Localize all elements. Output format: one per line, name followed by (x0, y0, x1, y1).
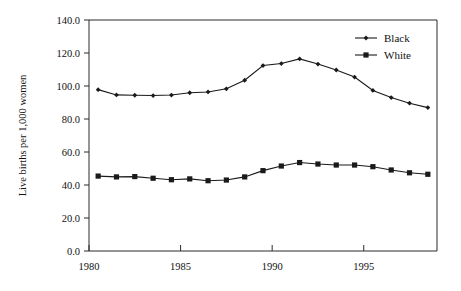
data-point-white (96, 173, 101, 178)
data-point-black (389, 95, 394, 100)
data-point-black (151, 93, 156, 98)
data-point-black (114, 93, 119, 98)
y-tick-label: 100.0 (56, 81, 80, 92)
x-tick-label: 1990 (262, 261, 283, 272)
data-point-white (224, 177, 229, 182)
data-point-black (334, 68, 339, 73)
data-point-white (425, 172, 430, 177)
y-axis-title: Live births per 1,000 women (17, 74, 28, 196)
chart-container: 0.020.040.060.080.0100.0120.0140.0198019… (0, 0, 461, 291)
data-point-white (352, 162, 357, 167)
data-point-white (297, 160, 302, 165)
y-tick-label: 60.0 (62, 147, 80, 158)
data-point-black (187, 90, 192, 95)
y-tick-label: 80.0 (62, 114, 80, 125)
y-tick-label: 140.0 (56, 15, 80, 26)
data-point-white (260, 168, 265, 173)
x-tick-label: 1995 (353, 261, 374, 272)
data-point-black (96, 87, 101, 92)
data-point-white (242, 174, 247, 179)
data-point-white (187, 176, 192, 181)
x-tick-label: 1980 (79, 261, 100, 272)
data-point-black (425, 105, 430, 110)
data-point-black (224, 86, 229, 91)
data-point-black (279, 61, 284, 66)
data-point-black (297, 57, 302, 62)
data-point-white (205, 178, 210, 183)
data-point-white (389, 167, 394, 172)
data-point-black (132, 93, 137, 98)
legend-label-white: White (384, 49, 411, 61)
data-point-white (151, 176, 156, 181)
data-point-white (279, 163, 284, 168)
y-tick-label: 120.0 (56, 48, 80, 59)
y-tick-label: 0.0 (67, 246, 80, 257)
x-tick-label: 1985 (170, 261, 191, 272)
legend-label-black: Black (384, 32, 410, 44)
data-point-white (334, 162, 339, 167)
y-tick-label: 40.0 (62, 180, 80, 191)
data-point-white (169, 177, 174, 182)
data-point-black (316, 62, 321, 67)
data-point-white (315, 161, 320, 166)
data-point-white (114, 174, 119, 179)
line-chart: 0.020.040.060.080.0100.0120.0140.0198019… (0, 0, 461, 291)
y-tick-label: 20.0 (62, 213, 80, 224)
legend-marker-black (364, 36, 369, 41)
data-point-white (370, 164, 375, 169)
data-point-black (169, 93, 174, 98)
data-point-black (206, 90, 211, 95)
data-point-white (132, 174, 137, 179)
data-point-white (407, 170, 412, 175)
legend-marker-white (363, 52, 368, 57)
data-point-black (407, 101, 412, 106)
